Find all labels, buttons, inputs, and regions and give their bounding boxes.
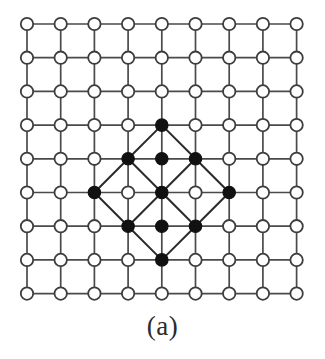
lattice-node-open	[122, 52, 134, 64]
lattice-node-open	[88, 287, 100, 299]
lattice-node-open	[290, 52, 302, 64]
lattice-node-open	[88, 220, 100, 232]
cluster-diagonal-edge	[128, 159, 162, 193]
lattice-node-open	[290, 18, 302, 30]
lattice-node-open	[257, 287, 269, 299]
lattice-node-filled	[223, 186, 235, 198]
lattice-node-open	[122, 119, 134, 131]
cluster-diagonal-edge	[162, 125, 196, 159]
lattice-node-open	[156, 287, 168, 299]
lattice-node-open	[189, 254, 201, 266]
lattice-node-open	[156, 18, 168, 30]
lattice-node-open	[290, 186, 302, 198]
lattice-node-filled	[122, 153, 134, 165]
lattice-node-open	[290, 119, 302, 131]
lattice-node-open	[55, 287, 67, 299]
lattice-node-filled	[156, 220, 168, 232]
lattice-node-filled	[156, 186, 168, 198]
lattice-node-open	[55, 52, 67, 64]
lattice-node-filled	[122, 220, 134, 232]
lattice-diagram	[0, 0, 325, 315]
lattice-node-open	[290, 254, 302, 266]
cluster-diagonal-edge	[162, 193, 196, 227]
lattice-node-open	[122, 85, 134, 97]
cluster-diagonal-edge	[94, 159, 128, 193]
lattice-node-open	[189, 52, 201, 64]
lattice-node-open	[21, 85, 33, 97]
lattice-node-open	[223, 153, 235, 165]
lattice-node-open	[122, 18, 134, 30]
lattice-node-open	[122, 254, 134, 266]
lattice-node-open	[88, 52, 100, 64]
lattice-node-open	[156, 52, 168, 64]
lattice-node-open	[122, 287, 134, 299]
lattice-node-open	[257, 254, 269, 266]
lattice-node-open	[189, 18, 201, 30]
lattice-node-open	[55, 85, 67, 97]
lattice-node-open	[122, 186, 134, 198]
cluster-diagonal-edge	[196, 159, 230, 193]
lattice-node-open	[257, 119, 269, 131]
lattice-node-open	[21, 52, 33, 64]
lattice-node-open	[21, 287, 33, 299]
lattice-node-open	[21, 254, 33, 266]
lattice-node-open	[257, 220, 269, 232]
lattice-node-open	[55, 254, 67, 266]
cluster-diagonal-edge	[162, 159, 196, 193]
lattice-node-open	[21, 18, 33, 30]
lattice-node-open	[88, 85, 100, 97]
lattice-node-open	[290, 85, 302, 97]
lattice-node-open	[290, 153, 302, 165]
cluster-diagonal-edge	[94, 193, 128, 227]
lattice-node-open	[223, 220, 235, 232]
cluster-diagonal-edge	[162, 226, 196, 260]
lattice-node-filled	[156, 254, 168, 266]
lattice-node-open	[223, 18, 235, 30]
lattice-node-open	[223, 52, 235, 64]
cluster-diagonal-edge	[128, 125, 162, 159]
figure-container: (a)	[0, 0, 325, 359]
lattice-node-open	[21, 220, 33, 232]
lattice-node-open	[257, 153, 269, 165]
lattice-node-filled	[189, 153, 201, 165]
lattice-node-open	[88, 254, 100, 266]
lattice-node-open	[21, 186, 33, 198]
lattice-node-open	[189, 119, 201, 131]
lattice-node-open	[55, 18, 67, 30]
lattice-node-open	[55, 119, 67, 131]
lattice-node-open	[88, 18, 100, 30]
lattice-node-open	[21, 119, 33, 131]
lattice-node-open	[223, 119, 235, 131]
lattice-node-open	[55, 220, 67, 232]
lattice-node-open	[257, 18, 269, 30]
lattice-node-open	[257, 186, 269, 198]
lattice-node-open	[223, 85, 235, 97]
figure-caption: (a)	[0, 310, 325, 342]
lattice-node-open	[55, 186, 67, 198]
lattice-node-open	[88, 119, 100, 131]
lattice-node-open	[189, 287, 201, 299]
lattice-node-open	[290, 220, 302, 232]
lattice-node-open	[257, 52, 269, 64]
lattice-node-open	[21, 153, 33, 165]
lattice-node-open	[88, 153, 100, 165]
lattice-node-filled	[189, 220, 201, 232]
lattice-node-filled	[156, 119, 168, 131]
lattice-node-open	[223, 254, 235, 266]
lattice-node-open	[189, 186, 201, 198]
lattice-node-filled	[156, 153, 168, 165]
lattice-node-open	[156, 85, 168, 97]
cluster-diagonal-edge	[128, 226, 162, 260]
lattice-node-open	[257, 85, 269, 97]
lattice-node-filled	[88, 186, 100, 198]
cluster-diagonal-edge	[128, 193, 162, 227]
lattice-node-open	[189, 85, 201, 97]
lattice-node-open	[223, 287, 235, 299]
lattice-node-open	[290, 287, 302, 299]
lattice-node-open	[55, 153, 67, 165]
cluster-diagonal-edge	[196, 193, 230, 227]
